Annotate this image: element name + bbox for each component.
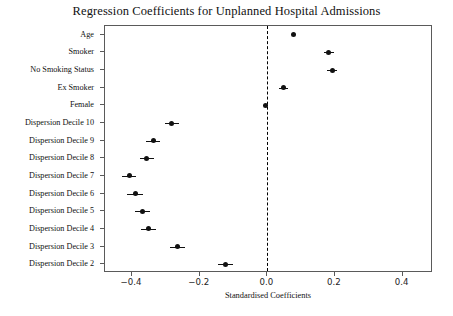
y-tick-label-dispersion-decile-4: Dispersion Decile 4 (0, 223, 100, 232)
y-tick-label-dispersion-decile-5: Dispersion Decile 5 (0, 206, 100, 215)
coefficient-point-marker (326, 50, 331, 55)
y-tick-label-smoker: Smoker (0, 47, 100, 56)
y-tick-mark (100, 228, 104, 229)
x-tick-mark (131, 272, 132, 276)
x-tick-mark (266, 272, 267, 276)
y-tick-label-dispersion-decile-6: Dispersion Decile 6 (0, 188, 100, 197)
y-axis: AgeSmokerNo Smoking StatusEx SmokerFemal… (0, 25, 100, 272)
zero-reference-line (267, 26, 268, 271)
y-tick-label-dispersion-decile-3: Dispersion Decile 3 (0, 241, 100, 250)
coefficient-point-marker (223, 262, 228, 267)
x-tick-mark (402, 272, 403, 276)
y-tick-mark (100, 263, 104, 264)
coefficient-point-marker (144, 156, 149, 161)
x-axis-label: Standardised Coefficients (104, 291, 432, 300)
y-tick-mark (100, 193, 104, 194)
x-tick-label: −0.2 (188, 277, 209, 287)
coefficient-point-marker (146, 226, 151, 231)
x-tick-label: −0.4 (121, 277, 142, 287)
coefficient-point-marker (169, 121, 174, 126)
coefficient-point-marker (291, 32, 296, 37)
x-tick-mark (334, 272, 335, 276)
coefficient-point-marker (330, 68, 335, 73)
y-tick-label-dispersion-decile-7: Dispersion Decile 7 (0, 170, 100, 179)
y-tick-label-ex-smoker: Ex Smoker (0, 82, 100, 91)
coefficient-point-marker (281, 85, 286, 90)
x-tick-label: 0.2 (327, 277, 341, 287)
y-tick-mark (100, 157, 104, 158)
y-tick-mark (100, 87, 104, 88)
coefficient-point-marker (175, 244, 180, 249)
y-tick-mark (100, 140, 104, 141)
y-tick-label-female: Female (0, 100, 100, 109)
regression-coefficient-plot: Regression Coefficients for Unplanned Ho… (0, 0, 453, 316)
coefficient-point-marker (151, 138, 156, 143)
plot-inner (105, 26, 431, 271)
page-title: Regression Coefficients for Unplanned Ho… (0, 4, 453, 19)
coefficient-point-marker (263, 103, 268, 108)
y-tick-mark (100, 51, 104, 52)
y-tick-label-age: Age (0, 29, 100, 38)
y-tick-mark (100, 69, 104, 70)
y-tick-mark (100, 175, 104, 176)
x-tick-label: 0.0 (259, 277, 273, 287)
y-tick-label-dispersion-decile-2: Dispersion Decile 2 (0, 259, 100, 268)
y-tick-mark (100, 122, 104, 123)
y-tick-label-dispersion-decile-10: Dispersion Decile 10 (0, 118, 100, 127)
y-tick-mark (100, 246, 104, 247)
x-axis: Standardised Coefficients −0.4−0.20.00.2… (104, 272, 432, 316)
y-tick-label-dispersion-decile-9: Dispersion Decile 9 (0, 135, 100, 144)
plot-area (104, 25, 432, 272)
y-tick-mark (100, 210, 104, 211)
coefficient-point-marker (133, 191, 138, 196)
y-tick-label-dispersion-decile-8: Dispersion Decile 8 (0, 153, 100, 162)
coefficient-point-marker (140, 209, 145, 214)
coefficient-point-marker (127, 173, 132, 178)
x-tick-mark (199, 272, 200, 276)
y-tick-label-no-smoking-status: No Smoking Status (0, 65, 100, 74)
y-tick-mark (100, 104, 104, 105)
x-tick-label: 0.4 (395, 277, 409, 287)
y-tick-mark (100, 34, 104, 35)
